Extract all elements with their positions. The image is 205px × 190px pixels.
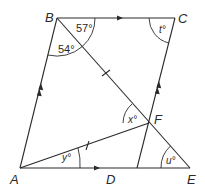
angle-label-54: 54° [58,43,75,55]
angle-label-57: 57° [76,22,93,34]
point-label-a: A [9,172,19,187]
geometry-diagram: B C F A D E 57° 54° t° x° y° u° [0,0,205,190]
point-label-e: E [187,172,196,187]
segment-af [20,123,149,168]
angle-label-t: t° [159,24,166,35]
parallel-arrow-ae [94,166,100,171]
angle-label-x: x° [127,114,137,125]
angle-arc-y [78,148,80,168]
point-label-c: C [178,11,188,26]
angle-label-y: y° [61,152,71,163]
parallel-arrow-bc [117,16,123,21]
segment-be [57,18,190,168]
point-label-f: F [154,112,163,127]
tick-mark-af [86,141,89,150]
point-label-d: D [106,172,115,187]
point-label-b: B [45,10,54,25]
angle-label-u: u° [166,155,176,166]
